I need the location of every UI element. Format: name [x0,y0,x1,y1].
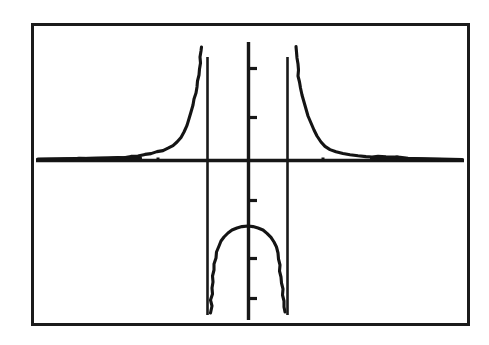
speck-3 [322,158,325,161]
rational-function-graph [0,0,489,345]
curve-right-branch [296,47,462,161]
curve-left-branch [38,47,202,160]
graph-screenshot: Graph of a rational function with two ve… [0,0,489,345]
speck-2 [157,158,160,161]
